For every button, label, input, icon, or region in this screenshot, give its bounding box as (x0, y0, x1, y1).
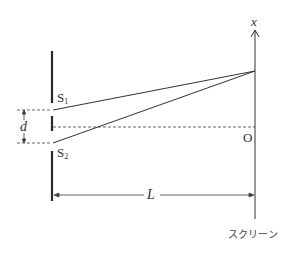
screen-label: スクリーン (228, 230, 278, 240)
origin-label: O (243, 131, 252, 144)
s1-subscript: 1 (64, 97, 68, 106)
diagram-graphics (0, 0, 298, 253)
axis-label-x: x (251, 15, 257, 28)
light-rays (53, 71, 255, 143)
distance-label: L (147, 188, 155, 202)
double-slit-diagram: x S1 S2 d O L スクリーン (0, 0, 298, 253)
slit-label-s2: S2 (57, 146, 68, 161)
s2-subscript: 2 (64, 152, 68, 161)
slit-label-s1: S1 (57, 91, 68, 106)
slit-separation-label: d (20, 120, 27, 134)
